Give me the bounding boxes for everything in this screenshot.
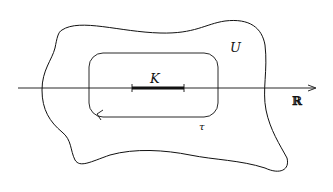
label-u: U — [230, 41, 241, 54]
label-k: K — [150, 72, 160, 85]
label-tau: τ — [199, 122, 205, 132]
label-real-line: ℝ — [292, 95, 302, 107]
diagram-canvas — [0, 0, 333, 192]
open-set-u-boundary — [42, 20, 288, 171]
contour-orientation-arrow-icon — [97, 110, 103, 120]
